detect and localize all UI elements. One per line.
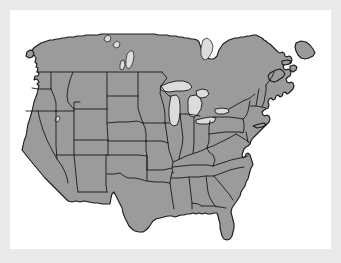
newfoundland	[295, 41, 315, 59]
map-svg: Map of the contiguous United States with…	[10, 10, 331, 249]
hudson-bay-inlet	[201, 38, 213, 60]
cape-breton-island	[290, 65, 297, 72]
lake-ontario	[215, 108, 229, 114]
lake-michigan	[169, 95, 180, 126]
map-figure: Map of the contiguous United States with…	[0, 0, 341, 263]
continental-landmass	[22, 34, 294, 240]
map-canvas: Map of the contiguous United States with…	[10, 10, 331, 249]
landmass-group	[22, 34, 315, 240]
